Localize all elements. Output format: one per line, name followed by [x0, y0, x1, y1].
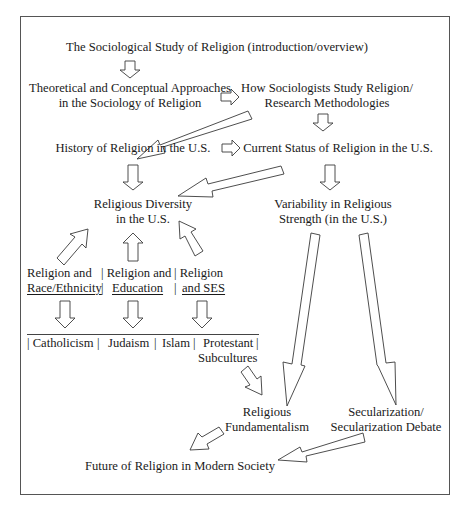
- traditions-divider: [27, 334, 259, 335]
- node-research-methods: How Sociologists Study Religion/ Researc…: [241, 81, 413, 111]
- node-fundamentalism-line1: Religious: [225, 405, 309, 420]
- tradition-protestant: Protestant: [203, 336, 253, 351]
- tradition-protestant-subcultures: Subcultures: [198, 351, 257, 366]
- node-diversity-line2: in the U.S.: [94, 212, 192, 227]
- node-education-line2: Education: [101, 281, 171, 296]
- tradition-catholicism: | Catholicism: [27, 336, 94, 351]
- separator: |: [256, 336, 259, 351]
- tradition-judaism: Judaism: [108, 336, 149, 351]
- node-methods-line1: How Sociologists Study Religion/: [241, 81, 413, 96]
- arrow-diag-current-to-diversity: [178, 166, 284, 197]
- node-religion-race: Religion and Race/Ethnicity: [27, 266, 102, 296]
- node-variability-line1: Variability in Religious: [274, 197, 392, 212]
- node-race-line2: Race/Ethnicity: [27, 281, 102, 296]
- arrow-diag-secularization-to-future: [278, 433, 365, 462]
- node-secularization-line2: Secularization Debate: [331, 420, 442, 435]
- node-religion-education: | Religion and Education: [101, 266, 171, 296]
- node-theoretical-line1: Theoretical and Conceptual Approaches: [29, 81, 231, 96]
- arrow-down-education-to-traditions: [123, 301, 143, 328]
- arrows-layer: [0, 0, 473, 522]
- node-religion-ses: | Religion and SES: [174, 266, 225, 296]
- node-diversity-line1: Religious Diversity: [94, 197, 192, 212]
- node-future-of-religion: Future of Religion in Modern Society: [85, 459, 275, 474]
- arrow-right-history-to-current: [222, 140, 240, 156]
- arrow-down-methods-to-current: [313, 114, 333, 131]
- separator: |: [154, 336, 157, 351]
- arrow-down-ses-to-traditions: [192, 301, 212, 328]
- node-current-status-label: Current Status of Religion in the U.S.: [243, 141, 433, 156]
- separator: |: [97, 336, 100, 351]
- node-future-label: Future of Religion in Modern Society: [85, 459, 275, 474]
- tradition-islam: Islam: [162, 336, 190, 351]
- node-ses-line2: and SES: [174, 281, 225, 296]
- node-fundamentalism: Religious Fundamentalism: [225, 405, 309, 435]
- node-education-line1: | Religion and: [101, 266, 171, 281]
- arrow-down-history-to-diversity: [123, 165, 143, 190]
- arrow-diag-subcultures-to-fundamentalism: [241, 366, 262, 395]
- node-current-status: Current Status of Religion in the U.S.: [243, 141, 433, 156]
- arrow-down-title-to-theoretical: [120, 61, 140, 78]
- node-secularization-line1: Secularization/: [331, 405, 442, 420]
- node-secularization: Secularization/ Secularization Debate: [331, 405, 442, 435]
- node-history-label: History of Religion in the U.S.: [56, 141, 211, 156]
- node-ses-line1: | Religion: [174, 266, 225, 281]
- node-religious-diversity: Religious Diversity in the U.S.: [94, 197, 192, 227]
- node-race-line1: Religion and: [27, 266, 102, 281]
- separator: |: [193, 336, 196, 351]
- node-variability-line2: Strength (in the U.S.): [274, 212, 392, 227]
- arrow-diag-fundamentalism-to-future: [190, 427, 224, 450]
- node-sociological-study-label: The Sociological Study of Religion (intr…: [66, 40, 368, 55]
- node-theoretical-line2: in the Sociology of Religion: [29, 96, 231, 111]
- arrow-up-race-to-diversity: [57, 229, 88, 265]
- node-history: History of Religion in the U.S.: [56, 141, 211, 156]
- node-fundamentalism-line2: Fundamentalism: [225, 420, 309, 435]
- node-methods-line2: Research Methodologies: [241, 96, 413, 111]
- arrow-long-variability-to-secularization: [359, 233, 396, 405]
- node-variability: Variability in Religious Strength (in th…: [274, 197, 392, 227]
- node-theoretical-approaches: Theoretical and Conceptual Approaches in…: [29, 81, 231, 111]
- node-sociological-study: The Sociological Study of Religion (intr…: [66, 40, 368, 55]
- arrow-up-education-to-diversity: [123, 233, 143, 261]
- arrow-down-race-to-traditions: [55, 301, 75, 328]
- arrow-down-current-to-variability: [320, 165, 340, 190]
- arrow-long-variability-to-fundamentalism: [283, 233, 320, 406]
